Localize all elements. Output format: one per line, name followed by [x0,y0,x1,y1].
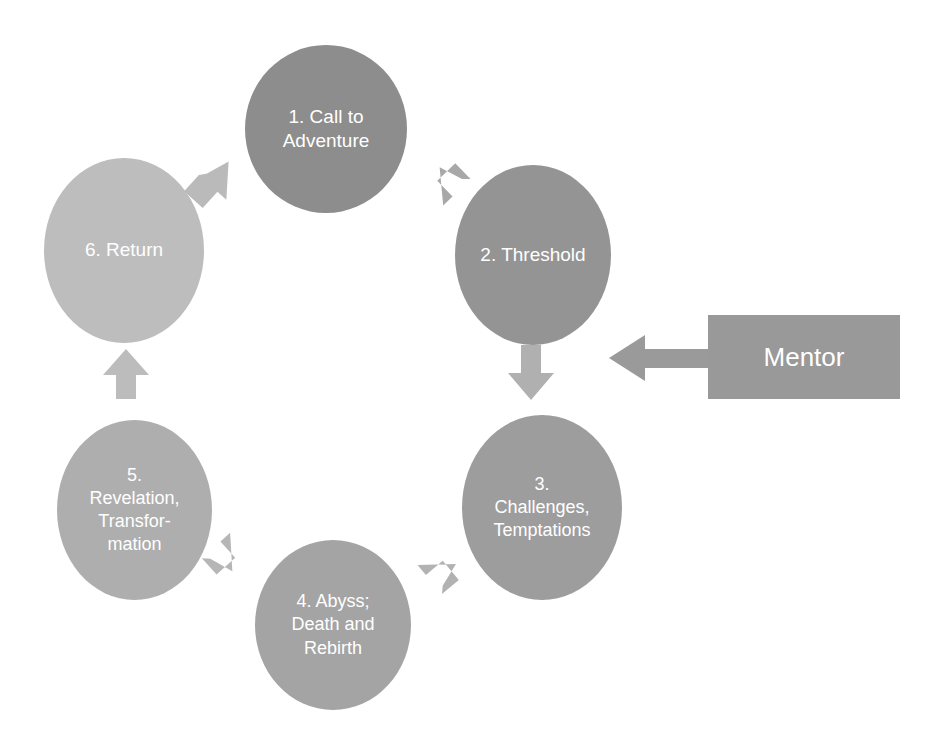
cycle-node-label: 4. Abyss; Death and Rebirth [285,590,380,659]
cycle-node-call-to-adventure[interactable]: 1. Call to Adventure [245,45,407,213]
mentor-box-label: Mentor [764,342,845,373]
cycle-node-label: 2. Threshold [474,243,591,267]
cycle-node-challenges-temptations[interactable]: 3. Challenges, Temptations [462,415,622,600]
cycle-node-label: 6. Return [79,238,169,262]
arrow-mentor-to-threshold [605,330,715,386]
cycle-node-return[interactable]: 6. Return [44,158,204,343]
cycle-node-abyss-death-and-rebirth[interactable]: 4. Abyss; Death and Rebirth [255,540,411,710]
arrow-2-to-3 [505,345,557,401]
diagram-canvas: 1. Call to Adventure 2. Threshold 3. Cha… [0,0,934,741]
arrow-1-to-2 [398,152,468,226]
cycle-node-revelation-transformation[interactable]: 5. Revelation, Transfor- mation [57,420,212,600]
cycle-node-threshold[interactable]: 2. Threshold [455,165,611,345]
cycle-node-label: 3. Challenges, Temptations [487,473,596,542]
arrow-5-to-6 [100,348,152,400]
mentor-box[interactable]: Mentor [708,315,900,399]
arrow-6-to-1 [190,155,256,225]
cycle-node-label: 1. Call to Adventure [277,105,376,154]
cycle-node-label: 5. Revelation, Transfor- mation [83,464,185,556]
